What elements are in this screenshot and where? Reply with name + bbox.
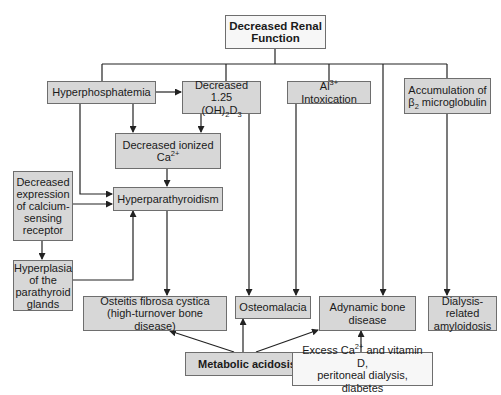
node-parathyroid-hyperplasia: Hyperplasia of the parathyroid glands [13, 260, 73, 311]
text-fragment: and vitamin D, [357, 344, 423, 369]
node-text-line: Hyperphosphatemia [52, 86, 150, 99]
text-fragment: Excess Ca [302, 344, 355, 356]
node-decreased-renal-function: Decreased Renal Function [225, 15, 326, 49]
text-fragment: Al [320, 80, 330, 92]
node-text-line: Metabolic acidosis [198, 358, 296, 371]
node-text-line: amyloidosis [432, 320, 493, 333]
edge-hyperplasia-hpt [72, 211, 133, 280]
node-hyperphosphatemia: Hyperphosphatemia [47, 81, 156, 104]
node-text-line: expression [16, 188, 69, 200]
renal-bone-disease-diagram: Decreased Renal Function Hyperphosphatem… [0, 0, 501, 395]
node-text-line: glands [14, 298, 72, 310]
node-osteomalacia: Osteomalacia [235, 296, 311, 319]
node-text-line: Excess Ca2+ and vitamin D, [296, 344, 429, 369]
node-text-line: parathyroid [14, 286, 72, 298]
text-fragment: (OH) [201, 104, 225, 116]
node-hyperparathyroidism: Hyperparathyroidism [113, 187, 223, 211]
node-b2-microglobulin: Accumulation of β2 microglobulin [404, 78, 491, 114]
superscript: 3+ [330, 78, 339, 87]
node-text-line: of the [14, 274, 72, 286]
subscript: 3 [237, 110, 241, 119]
text-fragment: Intoxication [301, 93, 357, 105]
node-decreased-casr-expression: Decreased expression of calcium- sensing… [13, 171, 73, 241]
node-aluminum-intoxication: Al3+ Intoxication [287, 81, 371, 104]
node-text-line: peritoneal dialysis, diabetes [296, 369, 429, 394]
node-excess-calcium-vitd: Excess Ca2+ and vitamin D, peritoneal di… [292, 352, 433, 386]
node-decreased-vitamin-d: Decreased 1.25 (OH)2D3 [182, 81, 261, 114]
node-text-line: (OH)2D3 [186, 104, 257, 117]
edge-hyperphos-hpt [80, 103, 112, 194]
node-metabolic-acidosis: Metabolic acidosis [185, 352, 309, 376]
node-text-line: Decreased ionized [122, 139, 213, 152]
text-fragment: microglobulin [419, 96, 487, 108]
node-text-line: Decreased 1.25 [186, 79, 257, 104]
node-text-line: disease [330, 314, 406, 327]
node-osteitis-fibrosa-cystica: Osteitis fibrosa cystica (high-turnover … [83, 296, 227, 331]
node-text-line: Hyperparathyroidism [117, 193, 218, 206]
node-text-line: β2 microglobulin [408, 96, 486, 109]
node-adynamic-bone-disease: Adynamic bone disease [319, 296, 416, 331]
edge-acidosis-ofc [170, 331, 234, 352]
superscript: 2+ [171, 149, 180, 158]
node-text-line: Decreased Renal [229, 20, 322, 33]
node-text-line: Osteitis fibrosa cystica [87, 295, 223, 308]
node-text-line: Ca2+ [122, 151, 213, 164]
edge-layer [0, 0, 501, 395]
node-dialysis-related-amyloidosis: Dialysis-related amyloidosis [428, 296, 497, 331]
node-text-line: Al3+ Intoxication [291, 80, 367, 105]
node-text-line: sensing [16, 212, 69, 224]
node-text-line: Accumulation of [408, 84, 486, 97]
node-text-line: Function [229, 32, 322, 45]
node-text-line: (high-turnover bone disease) [87, 307, 223, 332]
node-text-line: Osteomalacia [239, 301, 306, 314]
node-text-line: Dialysis-related [432, 295, 493, 320]
text-fragment: Ca [157, 151, 171, 163]
node-decreased-ionized-calcium: Decreased ionized Ca2+ [115, 133, 221, 169]
node-text-line: of calcium- [16, 200, 69, 212]
node-text-line: Hyperplasia [14, 262, 72, 274]
node-text-line: Decreased [16, 176, 69, 188]
node-text-line: receptor [16, 224, 69, 236]
node-text-line: Adynamic bone [330, 301, 406, 314]
